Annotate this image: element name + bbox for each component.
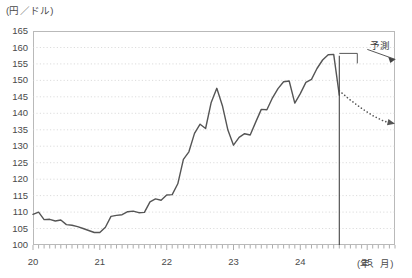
series-actual[interactable] [33, 54, 339, 232]
forecast-bracket[interactable] [339, 53, 357, 63]
chart-canvas [0, 0, 412, 278]
forecast-arrowhead[interactable] [387, 119, 395, 125]
series-forecast[interactable] [339, 91, 395, 124]
chart-root: (円／ドル) 165160155150145140135130125120115… [0, 0, 412, 278]
